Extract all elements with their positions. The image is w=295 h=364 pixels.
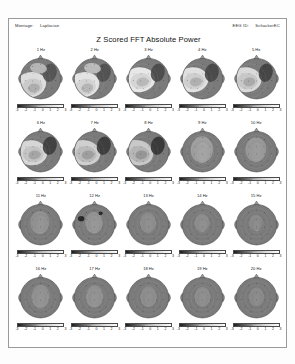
colorbar-tick: 3 — [64, 254, 66, 261]
colorbar-ticks: -3-2-10123 — [15, 327, 66, 334]
colorbar-tick: 0 — [257, 181, 259, 188]
topomap-panel-3hz[interactable]: 3 HzZ Score-3-2-10123 — [122, 47, 176, 120]
colorbar-tick: -2 — [239, 327, 242, 334]
topomap-head — [124, 53, 173, 102]
topomap-panel-4hz[interactable]: 4 HzZ Score-3-2-10123 — [175, 47, 229, 120]
colorbar-tick: 0 — [149, 181, 151, 188]
colorbar-tick: -1 — [87, 254, 90, 261]
topomap-head — [16, 272, 65, 321]
topomap-panel-17hz[interactable]: 17 HzZ Score-3-2-10123 — [68, 266, 122, 339]
colorbar-ticks: -3-2-10123 — [231, 327, 282, 334]
topomap-row: 6 HzZ Score-3-2-101237 HzZ Score-3-2-101… — [14, 120, 283, 193]
eeg-id-value: SchackerEC — [255, 23, 280, 28]
colorbar-tick: -1 — [140, 181, 143, 188]
topomap-panel-title: 8 Hz — [122, 120, 176, 125]
colorbar-tick: 1 — [49, 327, 51, 334]
colorbar-tick: -1 — [87, 327, 90, 334]
topomap-head-svg — [124, 53, 173, 102]
topomap-head — [178, 199, 227, 248]
colorbar-tick: 0 — [95, 181, 97, 188]
colorbar-tick: 3 — [118, 254, 120, 261]
colorbar-tick: 3 — [172, 181, 174, 188]
topomap-panel-6hz[interactable]: 6 HzZ Score-3-2-10123 — [14, 120, 68, 193]
colorbar-tick: 3 — [64, 181, 66, 188]
topomap-panel-title: 4 Hz — [175, 47, 229, 52]
topomap-panel-13hz[interactable]: 13 HzZ Score-3-2-10123 — [122, 193, 176, 266]
colorbar-tick: -1 — [33, 181, 36, 188]
topomap-head — [232, 272, 281, 321]
colorbar-tick: 0 — [149, 108, 151, 115]
topomap-head — [124, 199, 173, 248]
topomap-panel-title: 14 Hz — [175, 193, 229, 198]
colorbar-tick: 2 — [57, 108, 59, 115]
topomap-panel-16hz[interactable]: 16 HzZ Score-3-2-10123 — [14, 266, 68, 339]
topomap-head-svg — [124, 199, 173, 248]
eeg-id-label: EEG ID: — [232, 23, 248, 28]
colorbar-ticks: -3-2-10123 — [177, 108, 228, 115]
colorbar-tick: 2 — [272, 108, 274, 115]
colorbar-tick: -3 — [15, 108, 18, 115]
colorbar-tick: 1 — [49, 254, 51, 261]
colorbar-tick: -2 — [132, 327, 135, 334]
topomap-panel-9hz[interactable]: 9 HzZ Score-3-2-10123 — [175, 120, 229, 193]
topomap-panel-10hz[interactable]: 10 HzZ Score-3-2-10123 — [229, 120, 283, 193]
colorbar-tick: 3 — [118, 108, 120, 115]
topomap-head — [178, 126, 227, 175]
topomap-row: 16 HzZ Score-3-2-1012317 HzZ Score-3-2-1… — [14, 266, 283, 339]
colorbar-tick: 3 — [280, 327, 282, 334]
colorbar-tick: -1 — [194, 327, 197, 334]
topomap-panel-5hz[interactable]: 5 HzZ Score-3-2-10123 — [229, 47, 283, 120]
topomap-panel-19hz[interactable]: 19 HzZ Score-3-2-10123 — [175, 266, 229, 339]
topomap-head-svg — [70, 199, 119, 248]
colorbar-tick: -2 — [186, 327, 189, 334]
colorbar-tick: 1 — [264, 327, 266, 334]
colorbar-ticks: -3-2-10123 — [177, 254, 228, 261]
colorbar-tick: 0 — [257, 254, 259, 261]
colorbar-tick: 3 — [226, 108, 228, 115]
colorbar-tick: 1 — [211, 181, 213, 188]
colorbar-tick: 1 — [157, 327, 159, 334]
colorbar-tick: 1 — [103, 181, 105, 188]
topomap-head — [16, 53, 65, 102]
topomap-panel-14hz[interactable]: 14 HzZ Score-3-2-10123 — [175, 193, 229, 266]
colorbar-tick: 3 — [118, 327, 120, 334]
colorbar-tick: -1 — [140, 254, 143, 261]
colorbar-tick: 0 — [203, 181, 205, 188]
topomap-head-svg — [178, 53, 227, 102]
colorbar-tick: -3 — [123, 108, 126, 115]
colorbar-tick: 1 — [264, 108, 266, 115]
colorbar-tick: -2 — [78, 327, 81, 334]
topomap-panel-2hz[interactable]: 2 HzZ Score-3-2-10123 — [68, 47, 122, 120]
colorbar-tick: -3 — [231, 181, 234, 188]
topomap-head — [178, 53, 227, 102]
colorbar-tick: 2 — [272, 254, 274, 261]
colorbar-tick: -1 — [248, 108, 251, 115]
colorbar-tick: 2 — [218, 254, 220, 261]
colorbar-tick: -1 — [194, 181, 197, 188]
topomap-panel-15hz[interactable]: 15 HzZ Score-3-2-10123 — [229, 193, 283, 266]
topomap-panel-7hz[interactable]: 7 HzZ Score-3-2-10123 — [68, 120, 122, 193]
colorbar-ticks: -3-2-10123 — [231, 254, 282, 261]
topomap-head-svg — [124, 272, 173, 321]
colorbar-tick: 3 — [280, 108, 282, 115]
topomap-panel-title: 20 Hz — [229, 266, 283, 271]
topomap-panel-20hz[interactable]: 20 HzZ Score-3-2-10123 — [229, 266, 283, 339]
topomap-panel-8hz[interactable]: 8 HzZ Score-3-2-10123 — [122, 120, 176, 193]
topomap-head — [16, 126, 65, 175]
topomap-panel-11hz[interactable]: 11 HzZ Score-3-2-10123 — [14, 193, 68, 266]
topomap-panel-18hz[interactable]: 18 HzZ Score-3-2-10123 — [122, 266, 176, 339]
topomap-row: 1 HzZ Score-3-2-101232 HzZ Score-3-2-101… — [14, 47, 283, 120]
colorbar-tick: -1 — [248, 254, 251, 261]
colorbar-tick: 2 — [164, 181, 166, 188]
topomap-panel-title: 9 Hz — [175, 120, 229, 125]
colorbar-tick: -3 — [231, 254, 234, 261]
colorbar-tick: 2 — [111, 327, 113, 334]
colorbar-tick: -2 — [24, 108, 27, 115]
colorbar-tick: 0 — [203, 254, 205, 261]
colorbar-tick: 3 — [64, 327, 66, 334]
topomap-panel-12hz[interactable]: 12 HzZ Score-3-2-10123 — [68, 193, 122, 266]
topomap-panel-1hz[interactable]: 1 HzZ Score-3-2-10123 — [14, 47, 68, 120]
topomap-panel-title: 13 Hz — [122, 193, 176, 198]
colorbar-ticks: -3-2-10123 — [231, 181, 282, 188]
colorbar-tick: -2 — [132, 254, 135, 261]
